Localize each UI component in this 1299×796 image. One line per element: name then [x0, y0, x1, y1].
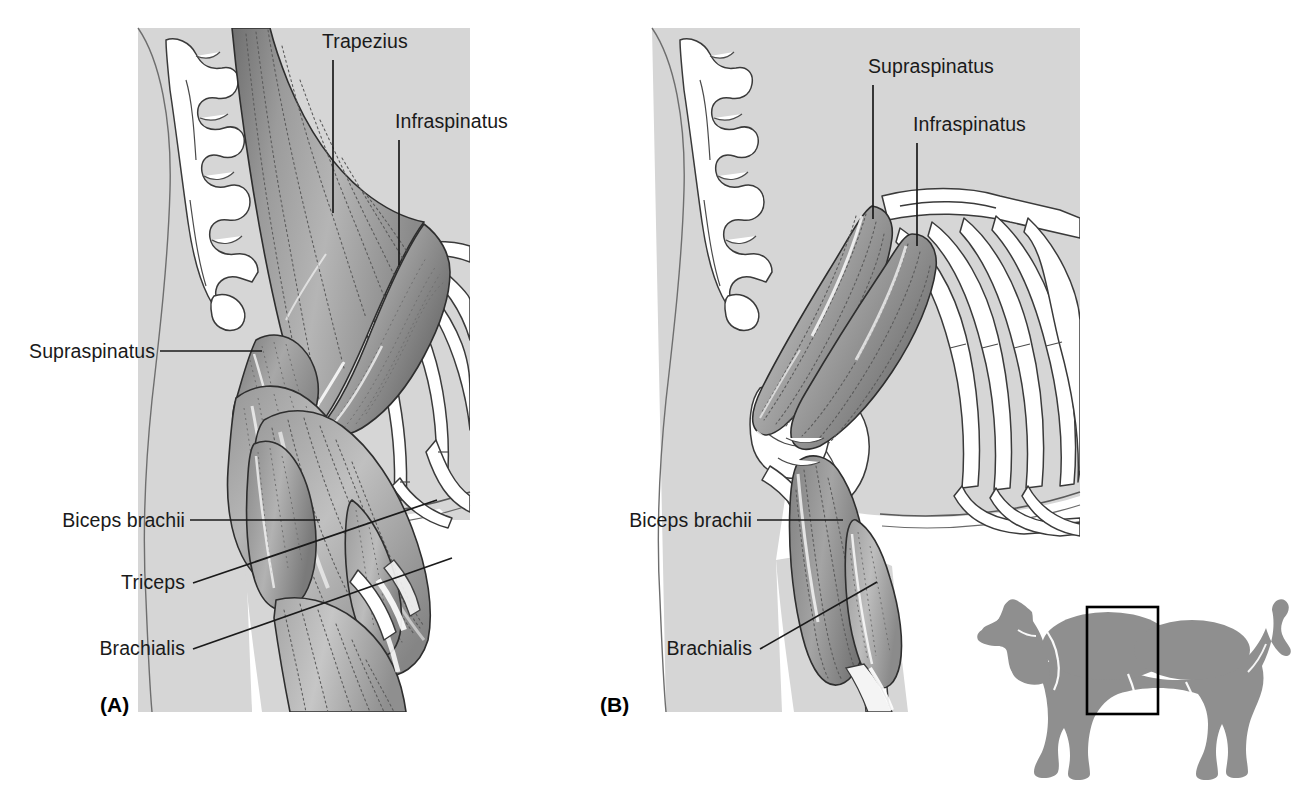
label-brachialis-a: Brachialis — [99, 637, 185, 659]
label-supraspinatus-a: Supraspinatus — [29, 340, 155, 362]
dog-orientation-inset — [977, 599, 1291, 780]
figure-canvas: Trapezius Infraspinatus Supraspinatus Bi… — [0, 0, 1299, 796]
label-biceps-brachii-b: Biceps brachii — [629, 509, 752, 531]
label-biceps-brachii-a: Biceps brachii — [62, 509, 185, 531]
label-triceps-a: Triceps — [121, 571, 185, 593]
label-infraspinatus-a: Infraspinatus — [395, 110, 508, 132]
label-trapezius-a: Trapezius — [322, 30, 408, 52]
label-supraspinatus-b: Supraspinatus — [868, 55, 994, 77]
label-infraspinatus-b: Infraspinatus — [913, 113, 1026, 135]
panel-caption-b: (B) — [600, 693, 629, 716]
panel-caption-a: (A) — [100, 693, 129, 716]
label-brachialis-b: Brachialis — [666, 637, 752, 659]
panel-a-illustration: Trapezius Infraspinatus Supraspinatus Bi… — [29, 28, 508, 716]
anatomy-figure: Trapezius Infraspinatus Supraspinatus Bi… — [0, 0, 1299, 796]
